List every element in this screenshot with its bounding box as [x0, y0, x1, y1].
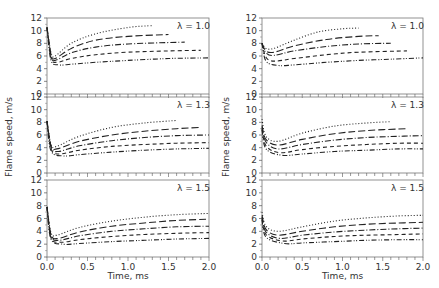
lambda-annotation: λ = 1.5 — [177, 183, 210, 193]
y-tick-label: 12 — [31, 13, 42, 23]
x-tick-label: 0.5 — [80, 262, 94, 272]
lambda-annotation: λ = 1.0 — [391, 21, 424, 31]
series-dash-dot-dot — [262, 130, 423, 156]
x-tick-label: 1.5 — [376, 262, 390, 272]
y-tick-label: 6 — [36, 214, 42, 224]
y-tick-label: 12 — [246, 92, 257, 102]
series-dash-dot-dot — [262, 43, 423, 65]
y-tick-label: 0 — [36, 252, 42, 262]
y-tick-label: 10 — [31, 105, 43, 115]
series-dash-dot — [47, 28, 185, 61]
y-tick-label: 8 — [36, 117, 42, 127]
y-tick-label: 4 — [36, 226, 42, 236]
y-tick-label: 4 — [251, 226, 257, 236]
series-dotted — [262, 28, 359, 49]
series-long-dash — [47, 207, 209, 239]
series-dash-dot-dot — [47, 28, 209, 66]
y-tick-label: 4 — [251, 64, 257, 74]
figure: 024681012λ = 1.0024681012λ = 1.302468101… — [0, 0, 439, 288]
y-tick-label: 12 — [31, 175, 42, 185]
y-tick-label: 2 — [36, 76, 42, 86]
y-tick-label: 8 — [251, 201, 257, 211]
y-tick-label: 2 — [251, 155, 257, 165]
series-dotted — [47, 207, 209, 236]
subplot-0-0: 024681012λ = 1.0 — [31, 13, 211, 99]
y-tick-label: 12 — [31, 92, 42, 102]
series-long-dash — [262, 126, 407, 146]
x-tick-label: 2.0 — [202, 262, 217, 272]
y-tick-label: 6 — [36, 51, 42, 61]
x-axis-label: Time, ms — [321, 271, 364, 281]
y-tick-label: 10 — [31, 188, 43, 198]
x-tick-label: 0.0 — [40, 262, 55, 272]
y-tick-label: 10 — [31, 26, 43, 36]
x-tick-label: 0.0 — [255, 262, 270, 272]
y-tick-label: 2 — [251, 239, 257, 249]
y-tick-label: 2 — [251, 76, 257, 86]
y-tick-label: 10 — [246, 26, 258, 36]
y-tick-label: 12 — [246, 175, 257, 185]
series-dotted — [47, 120, 177, 147]
y-tick-label: 10 — [246, 188, 258, 198]
y-tick-label: 8 — [251, 117, 257, 127]
series-dotted — [262, 212, 423, 231]
series-dash — [47, 28, 201, 63]
x-tick-label: 1.5 — [161, 262, 175, 272]
lambda-annotation: λ = 1.5 — [391, 183, 424, 193]
lambda-annotation: λ = 1.3 — [177, 100, 210, 110]
series-dash-dot — [47, 207, 209, 240]
y-tick-label: 6 — [251, 51, 257, 61]
series-dash-dot-dot — [47, 207, 209, 245]
subplot-0-1: 024681012λ = 1.3 — [31, 92, 210, 178]
y-tick-label: 6 — [251, 214, 257, 224]
y-tick-label: 12 — [246, 13, 257, 23]
y-tick-label: 8 — [36, 38, 42, 48]
y-tick-label: 8 — [36, 201, 42, 211]
series-dash — [47, 207, 209, 242]
y-tick-label: 6 — [251, 130, 257, 140]
lambda-annotation: λ = 1.0 — [177, 21, 210, 31]
series-dash-dot — [262, 43, 391, 55]
y-axis-label: Flame speed, m/s — [4, 97, 14, 177]
y-tick-label: 2 — [36, 155, 42, 165]
series-dash-dot — [47, 121, 209, 152]
y-tick-label: 4 — [251, 143, 257, 153]
lambda-annotation: λ = 1.3 — [391, 100, 424, 110]
subplot-1-1: 024681012λ = 1.3 — [246, 92, 424, 178]
y-tick-label: 4 — [36, 143, 42, 153]
y-tick-label: 8 — [251, 38, 257, 48]
y-tick-label: 4 — [36, 64, 42, 74]
series-long-dash — [262, 215, 423, 235]
y-tick-label: 6 — [36, 130, 42, 140]
series-dash-dot — [262, 127, 423, 149]
y-tick-label: 10 — [246, 105, 258, 115]
subplot-0-2: 0246810120.00.51.01.52.0Time, msλ = 1.5 — [31, 175, 217, 281]
subplot-1-0: 024681012λ = 1.0 — [246, 13, 425, 99]
x-tick-label: 2.0 — [416, 262, 431, 272]
x-axis-label: Time, ms — [106, 271, 149, 281]
subplot-1-2: 0246810120.00.51.01.52.0Time, msλ = 1.5 — [246, 175, 431, 281]
y-tick-label: 0 — [251, 252, 257, 262]
x-tick-label: 0.5 — [295, 262, 309, 272]
y-tick-label: 2 — [36, 239, 42, 249]
y-axis-label: Flame speed, m/s — [221, 97, 231, 177]
